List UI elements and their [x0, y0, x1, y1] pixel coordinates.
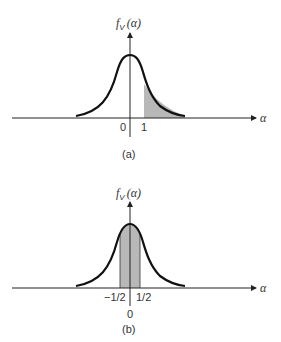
caption-a: (a)	[122, 148, 135, 160]
tick-label-neg-half: −1/2	[104, 291, 126, 303]
figure: fV(α) α 0 1 (a) fV(α) α −1/2 1/2 0 (b)	[0, 0, 281, 342]
x-axis-label: α	[260, 111, 267, 125]
tick-label-0: 0	[127, 308, 133, 320]
tick-label-0: 0	[120, 121, 126, 133]
panel-b: fV(α) α −1/2 1/2 0 (b)	[12, 186, 267, 335]
x-axis-label: α	[260, 281, 267, 295]
panel-a: fV(α) α 0 1 (a)	[12, 16, 267, 160]
y-axis-label: fV(α)	[116, 186, 141, 202]
shaded-tail-area	[144, 84, 185, 118]
tick-label-half: 1/2	[136, 291, 151, 303]
tick-label-1: 1	[141, 121, 147, 133]
y-axis-label: fV(α)	[116, 16, 141, 32]
caption-b: (b)	[122, 323, 135, 335]
